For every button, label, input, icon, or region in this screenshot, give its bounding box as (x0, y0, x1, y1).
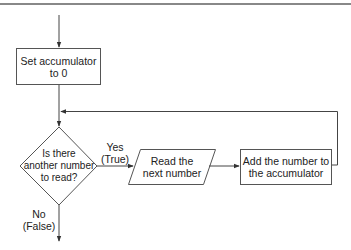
text-line: the accumulator (240, 167, 332, 179)
text-line: (True) (100, 153, 130, 165)
node-add-number-text: Add the number to the accumulator (240, 155, 332, 179)
node-decision-text: Is there another number to read? (19, 148, 99, 184)
text-line: Add the number to (240, 155, 332, 167)
node-read-number-text: Read the next number (134, 155, 210, 179)
no-label: No (False) (20, 208, 58, 232)
text-line: Yes (100, 141, 130, 153)
text-line: to read? (19, 172, 99, 184)
text-line: to 0 (16, 67, 101, 79)
node-set-accumulator-text: Set accumulator to 0 (16, 55, 101, 79)
text-line: Is there (19, 148, 99, 160)
header-rule (0, 3, 351, 5)
text-line: (False) (20, 220, 58, 232)
yes-label: Yes (True) (100, 141, 130, 165)
text-line: Read the (134, 155, 210, 167)
text-line: No (20, 208, 58, 220)
text-line: another number (19, 160, 99, 172)
text-line: next number (134, 167, 210, 179)
text-line: Set accumulator (16, 55, 101, 67)
